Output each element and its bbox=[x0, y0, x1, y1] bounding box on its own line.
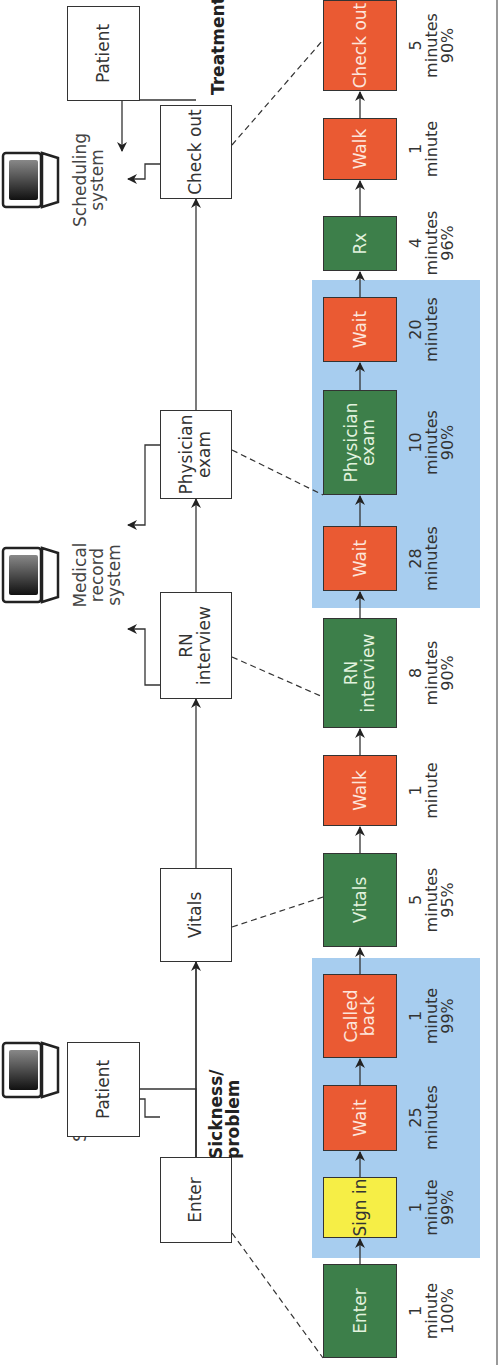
vitals-box: Vitals bbox=[160, 868, 232, 962]
step-meta: 10 minutes 90% bbox=[408, 390, 456, 495]
physician-exam-box: Physician exam bbox=[160, 410, 232, 499]
step-walk-2: Walk bbox=[323, 118, 397, 180]
step-meta: 4 minutes 96% bbox=[408, 201, 456, 285]
scheduling-system-label-2: Scheduling system bbox=[72, 125, 106, 235]
step-meta: 1 minute 99% bbox=[408, 974, 456, 1058]
step-meta: 28 minutes bbox=[408, 516, 440, 601]
step-rn-interview: RN interview bbox=[323, 618, 397, 728]
step-meta: 1 minute bbox=[408, 108, 440, 190]
computer-icon bbox=[0, 150, 60, 210]
step-pct: 96% bbox=[440, 201, 456, 285]
step-unit: minutes bbox=[424, 516, 440, 601]
treatment-label: Treatment bbox=[210, 0, 227, 95]
step-meta: 8 minutes 90% bbox=[408, 618, 456, 728]
step-rx: Rx bbox=[323, 216, 397, 271]
step-sign-in: Sign in bbox=[323, 1177, 397, 1238]
rn-interview-box: RN interview bbox=[160, 592, 232, 699]
check-out-box: Check out bbox=[160, 105, 232, 199]
step-called-back: Called back bbox=[323, 974, 397, 1058]
step-meta: 5 minutes 95% bbox=[408, 853, 456, 947]
step-unit: minutes bbox=[424, 1075, 440, 1160]
patient-start-box: Patient bbox=[67, 1042, 140, 1137]
step-pct: 95% bbox=[440, 853, 456, 947]
step-wait-3: Wait bbox=[323, 297, 397, 362]
step-meta: 25 minutes bbox=[408, 1075, 440, 1160]
step-physician-exam: Physician exam bbox=[323, 390, 397, 495]
step-pct: 99% bbox=[440, 974, 456, 1058]
step-pct: 90% bbox=[440, 618, 456, 728]
computer-icon bbox=[0, 1040, 60, 1100]
step-meta: 20 minutes bbox=[408, 287, 440, 372]
step-meta: 1 minute 99% bbox=[408, 1165, 456, 1250]
medical-record-system-label: Medical record system bbox=[72, 520, 123, 630]
step-enter: Enter bbox=[323, 1264, 397, 1358]
patient-end-box: Patient bbox=[67, 6, 140, 101]
step-check-out: Check out bbox=[323, 0, 397, 91]
step-pct: 100% bbox=[440, 1264, 456, 1358]
step-meta: 1 minute 100% bbox=[408, 1264, 456, 1358]
step-vitals: Vitals bbox=[323, 853, 397, 947]
step-unit: minutes bbox=[424, 287, 440, 372]
value-stream-diagram: Scheduling system Medical record system … bbox=[0, 0, 501, 1365]
enter-box: Enter bbox=[160, 1157, 232, 1243]
step-wait-2: Wait bbox=[323, 526, 397, 591]
sickness-problem-label: Sickness/ problem bbox=[208, 1069, 242, 1159]
step-pct: 90% bbox=[440, 0, 456, 91]
step-wait-1: Wait bbox=[323, 1085, 397, 1151]
step-walk-1: Walk bbox=[323, 755, 397, 826]
step-meta: 1 minute bbox=[408, 748, 440, 833]
computer-icon bbox=[0, 545, 60, 605]
step-pct: 99% bbox=[440, 1165, 456, 1250]
step-unit: minute bbox=[424, 108, 440, 190]
step-pct: 90% bbox=[440, 390, 456, 495]
step-meta: 5 minutes 90% bbox=[408, 0, 456, 91]
step-unit: minute bbox=[424, 748, 440, 833]
